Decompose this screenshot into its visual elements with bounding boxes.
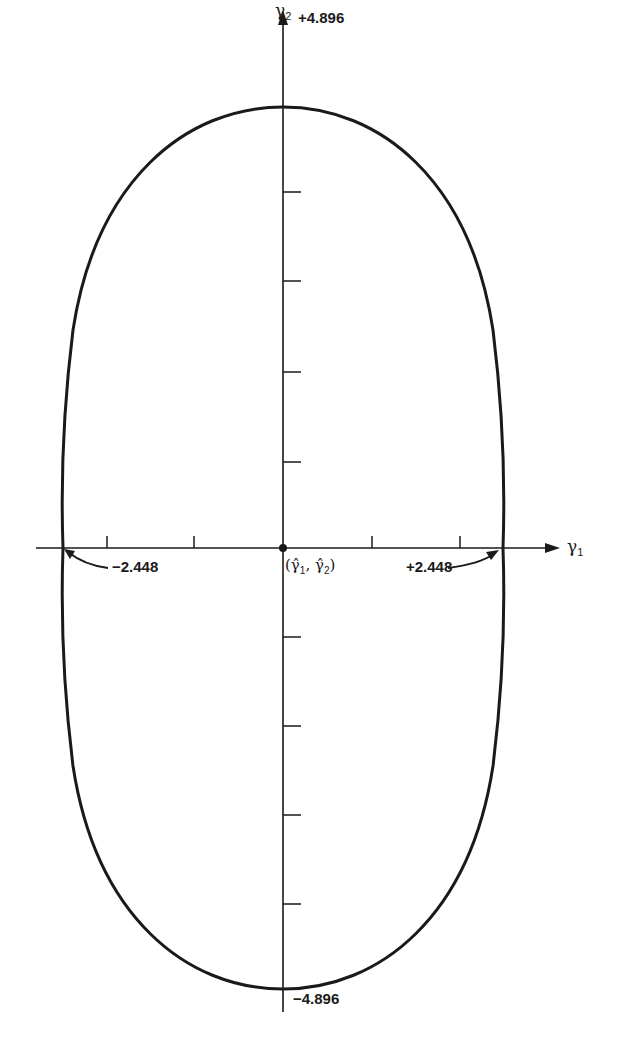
y-axis-label: γ2 (275, 0, 291, 22)
center-separator: , (305, 556, 315, 574)
x-axis-subscript: 1 (577, 546, 583, 558)
gamma-hat-2: γ̂ (315, 556, 324, 574)
y-axis-symbol: γ (275, 0, 285, 20)
gamma-hat-1: γ̂ (291, 556, 300, 574)
x-axis-arrow-icon (545, 543, 560, 553)
x-axis-symbol: γ (567, 536, 577, 556)
chart-canvas (0, 0, 619, 1040)
center-point (279, 544, 287, 552)
right-intercept-arrow-icon (448, 554, 494, 568)
top-intercept-label: +4.896 (298, 9, 344, 26)
center-close-paren: ) (329, 556, 335, 574)
x-axis-label: γ1 (567, 536, 583, 558)
center-label: (γ̂1, γ̂2) (285, 556, 335, 576)
left-arrowhead-icon (64, 549, 75, 559)
y-axis-subscript: 2 (285, 10, 291, 22)
left-intercept-arrow-icon (68, 552, 108, 568)
bottom-intercept-label: −4.896 (293, 990, 339, 1007)
right-intercept-label: +2.448 (406, 558, 452, 575)
left-intercept-label: −2.448 (112, 558, 158, 575)
